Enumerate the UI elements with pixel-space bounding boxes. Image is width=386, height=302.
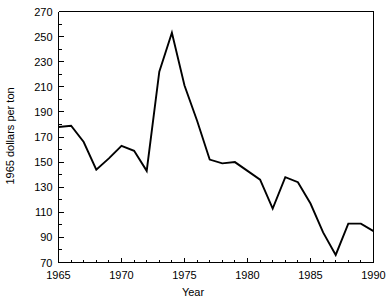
x-tick-label: 1970 bbox=[109, 269, 133, 281]
y-tick-label: 250 bbox=[34, 31, 52, 43]
x-tick-label: 1990 bbox=[361, 269, 385, 281]
y-tick-label: 170 bbox=[34, 131, 52, 143]
x-tick-label: 1965 bbox=[46, 269, 70, 281]
y-tick-label: 230 bbox=[34, 56, 52, 68]
y-tick-label: 90 bbox=[40, 231, 52, 243]
y-tick-label: 150 bbox=[34, 156, 52, 168]
y-tick-label: 270 bbox=[34, 6, 52, 18]
chart-background bbox=[0, 0, 386, 302]
y-tick-label: 70 bbox=[40, 257, 52, 269]
y-tick-label: 110 bbox=[35, 206, 53, 218]
y-tick-label: 210 bbox=[34, 81, 52, 93]
line-chart: 7090110130150170190210230250270 19651970… bbox=[0, 0, 386, 302]
y-tick-label: 130 bbox=[34, 181, 52, 193]
y-axis-title: 1965 dollars per ton bbox=[4, 87, 16, 184]
x-axis-title: Year bbox=[182, 286, 205, 298]
x-tick-label: 1980 bbox=[235, 269, 259, 281]
y-tick-label: 190 bbox=[34, 106, 52, 118]
chart-container: 7090110130150170190210230250270 19651970… bbox=[0, 0, 386, 302]
x-tick-label: 1985 bbox=[298, 269, 322, 281]
x-tick-label: 1975 bbox=[172, 269, 196, 281]
